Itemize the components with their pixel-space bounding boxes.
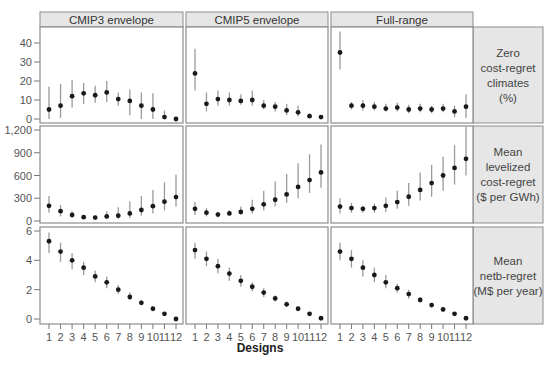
x-tick-label: 5 bbox=[383, 331, 389, 343]
x-tick-label: 2 bbox=[348, 331, 354, 343]
data-point bbox=[151, 107, 156, 112]
panel bbox=[40, 27, 183, 123]
data-point bbox=[193, 71, 198, 76]
data-point bbox=[296, 306, 301, 311]
data-point bbox=[273, 104, 278, 109]
panel-frame bbox=[331, 227, 473, 324]
x-tick-label: 10 bbox=[147, 331, 159, 343]
panel bbox=[331, 126, 473, 223]
y-tick-label: 900 bbox=[14, 147, 32, 159]
data-point bbox=[238, 99, 243, 104]
data-point bbox=[383, 203, 388, 208]
data-point bbox=[349, 256, 354, 261]
x-axis-title: Designs bbox=[220, 341, 300, 355]
chart-canvas: CMIP3 envelopeCMIP5 envelopeFull-rangeZe… bbox=[0, 0, 555, 366]
x-tick-label: 4 bbox=[81, 331, 87, 343]
data-point bbox=[349, 206, 354, 211]
x-tick-label: 4 bbox=[371, 331, 377, 343]
data-point bbox=[227, 98, 232, 103]
data-point bbox=[372, 206, 377, 211]
data-point bbox=[193, 206, 198, 211]
data-point bbox=[204, 210, 209, 215]
data-point bbox=[104, 214, 109, 219]
x-tick-label: 11 bbox=[449, 331, 460, 343]
data-point bbox=[162, 199, 167, 204]
data-point bbox=[406, 107, 411, 112]
data-point bbox=[338, 249, 343, 254]
data-point bbox=[227, 211, 232, 216]
data-point bbox=[349, 103, 354, 108]
data-point bbox=[116, 97, 121, 102]
data-point bbox=[307, 114, 312, 119]
row-strip bbox=[473, 126, 543, 223]
data-point bbox=[238, 278, 243, 283]
data-point bbox=[162, 311, 167, 316]
data-point bbox=[104, 90, 109, 95]
row-strip-label: levelized bbox=[486, 161, 531, 173]
data-point bbox=[429, 107, 434, 112]
panel bbox=[40, 126, 183, 223]
data-point bbox=[452, 109, 457, 114]
data-point bbox=[216, 212, 221, 217]
y-tick-label: 300 bbox=[14, 192, 32, 204]
data-point bbox=[319, 170, 324, 175]
data-point bbox=[418, 106, 423, 111]
data-point bbox=[204, 256, 209, 261]
data-point bbox=[216, 97, 221, 102]
panel-frame bbox=[186, 27, 328, 123]
y-tick-label: 2 bbox=[26, 284, 32, 296]
x-tick-label: 3 bbox=[360, 331, 366, 343]
y-tick-label: 4 bbox=[26, 254, 32, 266]
x-tick-label: 1 bbox=[192, 331, 198, 343]
data-point bbox=[116, 213, 121, 218]
data-point bbox=[338, 50, 343, 55]
data-point bbox=[429, 303, 434, 308]
data-point bbox=[227, 271, 232, 276]
data-point bbox=[284, 108, 289, 113]
panel-frame bbox=[186, 126, 328, 223]
data-point bbox=[174, 195, 179, 200]
data-point bbox=[238, 210, 243, 215]
data-point bbox=[81, 265, 86, 270]
data-point bbox=[429, 181, 434, 186]
data-point bbox=[361, 265, 366, 270]
data-point bbox=[383, 280, 388, 285]
data-point bbox=[464, 104, 469, 109]
x-tick-label: 12 bbox=[460, 331, 472, 343]
row-strip-label: netb-regret bbox=[480, 270, 537, 282]
x-tick-label: 8 bbox=[417, 331, 423, 343]
data-point bbox=[58, 103, 63, 108]
data-point bbox=[418, 188, 423, 193]
panel bbox=[331, 227, 473, 324]
faceted-chart: CMIP3 envelopeCMIP5 envelopeFull-rangeZe… bbox=[0, 0, 555, 366]
y-tick-label: 1,200 bbox=[4, 124, 32, 136]
data-point bbox=[116, 287, 121, 292]
data-point bbox=[58, 249, 63, 254]
data-point bbox=[307, 178, 312, 183]
x-tick-label: 2 bbox=[57, 331, 63, 343]
y-tick-label: 20 bbox=[20, 75, 32, 87]
data-point bbox=[319, 115, 324, 120]
data-point bbox=[464, 316, 469, 321]
data-point bbox=[261, 103, 266, 108]
data-point bbox=[395, 200, 400, 205]
data-point bbox=[58, 209, 63, 214]
data-point bbox=[127, 99, 132, 104]
data-point bbox=[372, 104, 377, 109]
data-point bbox=[81, 91, 86, 96]
y-tick-label: 40 bbox=[20, 37, 32, 49]
x-tick-label: 9 bbox=[138, 331, 144, 343]
data-point bbox=[261, 290, 266, 295]
data-point bbox=[418, 298, 423, 303]
data-point bbox=[273, 296, 278, 301]
data-point bbox=[174, 317, 179, 322]
x-tick-label: 2 bbox=[203, 331, 209, 343]
data-point bbox=[104, 280, 109, 285]
column-strip-label: CMIP5 envelope bbox=[214, 14, 299, 26]
y-tick-label: 600 bbox=[14, 170, 32, 182]
panel bbox=[40, 227, 183, 324]
panel bbox=[186, 27, 328, 123]
x-tick-label: 5 bbox=[92, 331, 98, 343]
x-tick-label: 3 bbox=[69, 331, 75, 343]
data-point bbox=[452, 166, 457, 171]
